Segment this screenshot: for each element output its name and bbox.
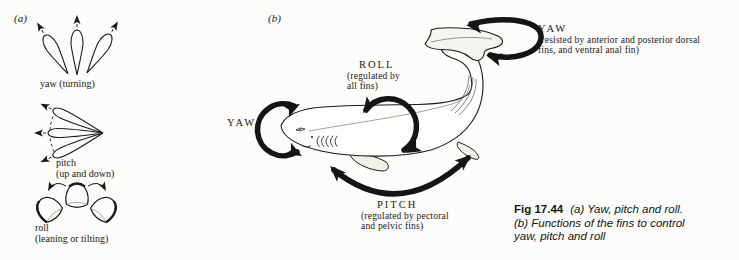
yaw-tail-sub-line2: fins, and ventral anal fin) xyxy=(538,45,700,56)
yaw-demo-caption: yaw (turning) xyxy=(40,78,95,89)
panel-b-label: (b) xyxy=(268,12,281,24)
roll-fish-center xyxy=(66,184,88,208)
roll-title: ROLL xyxy=(359,59,400,71)
caption-line1: (a) Yaw, pitch and roll. xyxy=(570,203,683,215)
pupil xyxy=(299,128,301,130)
figure-17-44: (a) yaw (turning) pitch (up and down) ro… xyxy=(0,0,739,260)
panel-a-label: (a) xyxy=(14,12,27,24)
roll-demo xyxy=(32,181,120,224)
caption-line2: (b) Functions of the fins to control xyxy=(514,217,736,231)
arrowhead xyxy=(39,101,50,111)
roll-label-block: ROLL (regulated by all fins) xyxy=(347,59,400,92)
yaw-fish-right xyxy=(82,31,116,76)
roll-demo-caption-line2: (leaning or tilting) xyxy=(35,233,108,244)
yaw-head-label: YAW xyxy=(227,117,256,129)
yaw-demo xyxy=(32,15,123,77)
pitch-sub-line2: and pelvic fins) xyxy=(361,221,449,232)
roll-sub-line2: all fins) xyxy=(347,81,400,92)
spiracle xyxy=(311,136,313,138)
roll-fish-left xyxy=(32,192,64,225)
roll-fish-right xyxy=(88,192,120,225)
arrowhead xyxy=(45,181,55,192)
yaw-tail-sub-line1: (resisted by anterior and posterior dors… xyxy=(538,35,700,46)
arrowhead xyxy=(110,20,121,31)
arrowhead xyxy=(39,155,50,165)
pitch-sub-line1: (regulated by pectoral xyxy=(361,211,449,222)
roll-sub-line1: (regulated by xyxy=(347,71,400,82)
pitch-demo-caption-line1: pitch xyxy=(56,157,114,168)
roll-demo-caption-line1: roll xyxy=(35,222,108,233)
yaw-fish-left xyxy=(40,32,74,77)
arrowhead xyxy=(34,130,43,137)
figure-caption: Fig 17.44(a) Yaw, pitch and roll. (b) Fu… xyxy=(514,203,736,244)
pitch-demo-caption-line2: (up and down) xyxy=(56,168,114,179)
arrowhead xyxy=(74,15,81,24)
caption-line3: yaw, pitch and roll xyxy=(514,230,736,244)
pitch-demo-caption: pitch (up and down) xyxy=(56,157,114,179)
roll-demo-caption: roll (leaning or tilting) xyxy=(35,222,108,244)
yaw-fish-center xyxy=(71,30,83,75)
yaw-tail-title: YAW xyxy=(538,23,700,35)
pitch-label-block: PITCH (regulated by pectoral and pelvic … xyxy=(361,199,449,232)
arrowhead xyxy=(34,21,45,32)
arrowhead xyxy=(99,181,109,192)
figure-number: Fig 17.44 xyxy=(514,203,563,215)
pitch-title: PITCH xyxy=(377,199,449,211)
yaw-tail-label-block: YAW (resisted by anterior and posterior … xyxy=(538,23,700,56)
pitch-arrow xyxy=(334,158,468,194)
